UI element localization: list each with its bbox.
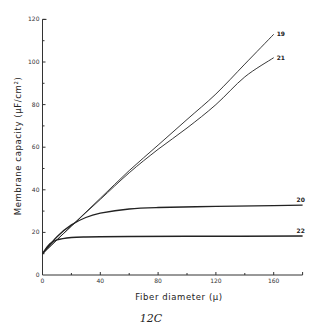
x-tick-label: 40 (96, 277, 104, 284)
x-tick-label: 0 (41, 277, 45, 284)
series-label-20: 20 (297, 196, 305, 203)
chart: 04080120160020406080100120 19212022 Memb… (0, 0, 313, 332)
series-line-20 (43, 205, 303, 254)
y-tick-label: 100 (28, 58, 40, 65)
x-tick-label: 120 (210, 277, 222, 284)
y-tick-label: 60 (32, 143, 40, 150)
x-axis-label: Fiber diameter (μ) (135, 292, 223, 302)
figure-caption: 12C (140, 312, 163, 325)
y-tick-label: 80 (32, 101, 40, 108)
y-tick-label: 20 (32, 228, 40, 235)
x-tick-label: 80 (154, 277, 162, 284)
series-labels: 19212022 (277, 30, 305, 234)
series-label-22: 22 (297, 227, 305, 234)
y-tick-label: 120 (28, 15, 40, 22)
series-line-22 (43, 236, 303, 254)
series-label-21: 21 (277, 54, 285, 61)
y-axis-label: Membrane capacity (μF/cm²) (13, 77, 23, 216)
x-tick-label: 160 (268, 277, 280, 284)
y-tick-label: 0 (36, 271, 40, 278)
curves (43, 34, 303, 253)
series-line-21 (43, 58, 274, 254)
y-tick-label: 40 (32, 186, 40, 193)
series-label-19: 19 (277, 30, 285, 37)
tick-labels: 04080120160020406080100120 (28, 15, 280, 284)
